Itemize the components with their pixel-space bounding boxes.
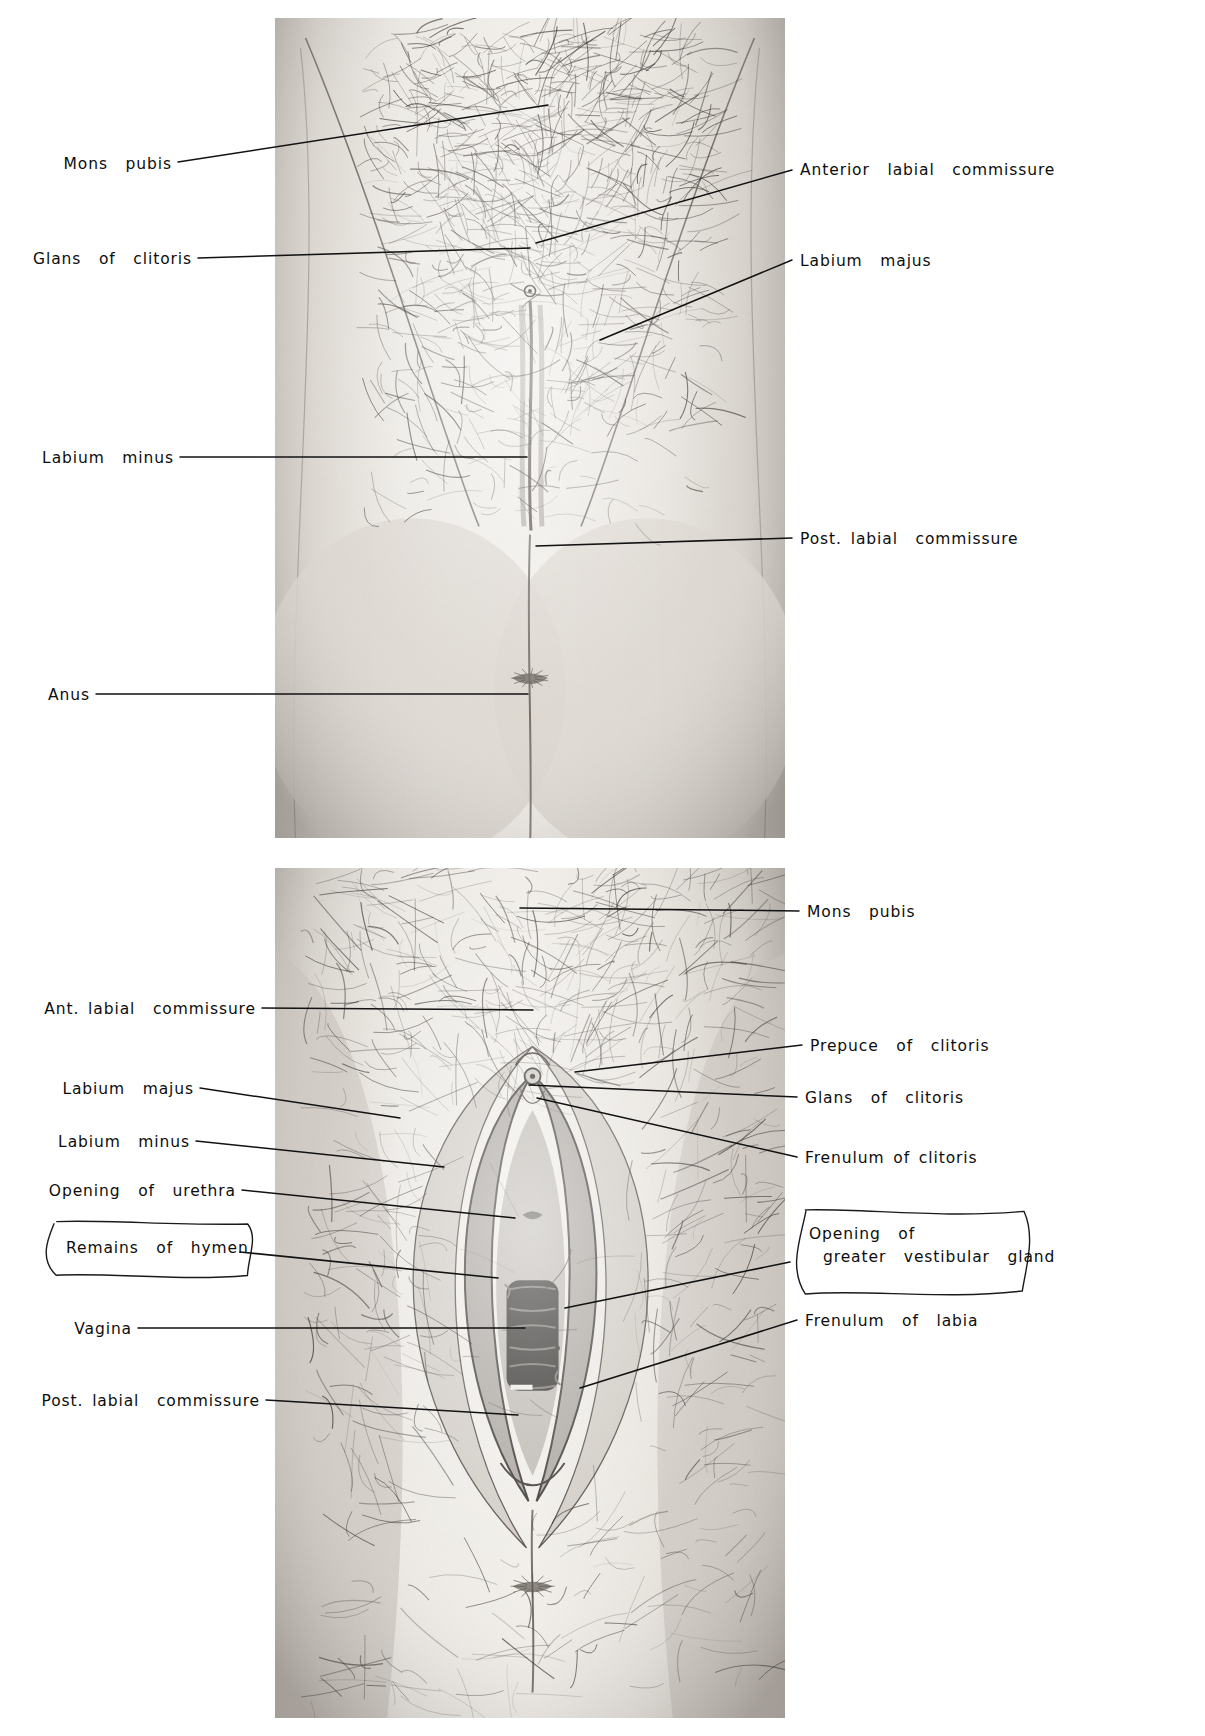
label-vagina: Vagina <box>0 1320 138 1340</box>
label-prepuce-of-clitoris: Prepuce of clitoris <box>810 1037 989 1057</box>
label-frenulum-of-clitoris: Frenulum of clitoris <box>805 1149 977 1169</box>
label-labium-majus: Labium majus <box>0 1080 200 1100</box>
callout-text-line: Opening of <box>809 1224 915 1245</box>
remains-of-hymen-callout: Remains of hymen <box>46 1222 254 1276</box>
label-mons-pubis: Mons pubis <box>807 903 915 923</box>
label-post-labial-commissure: Post. labial commissure <box>0 1392 266 1412</box>
label-frenulum-of-labia: Frenulum of labia <box>805 1312 978 1332</box>
label-opening-of-urethra: Opening of urethra <box>0 1182 242 1202</box>
label-anterior-labial-commissure: Anterior labial commissure <box>800 161 1055 181</box>
label-labium-minus: Labium minus <box>0 449 180 469</box>
label-ant-labial-commissure: Ant. labial commissure <box>0 1000 262 1020</box>
anatomical-plate: Mons pubisGlans of clitorisLabium minusA… <box>0 0 1205 1736</box>
label-glans-of-clitoris: Glans of clitoris <box>0 250 198 270</box>
callout-text-line: greater vestibular gland <box>823 1247 1055 1268</box>
label-post-labial-commissure: Post. labial commissure <box>800 530 1019 550</box>
label-glans-of-clitoris: Glans of clitoris <box>805 1089 964 1109</box>
upper-figure-image <box>275 18 785 838</box>
greater-vestibular-gland-callout: Opening ofgreater vestibular gland <box>795 1212 1030 1292</box>
label-labium-majus: Labium majus <box>800 252 932 272</box>
lower-figure-image <box>275 868 785 1718</box>
label-anus: Anus <box>0 686 96 706</box>
callout-text: Remains of hymen <box>66 1238 249 1259</box>
label-labium-minus: Labium minus <box>0 1133 196 1153</box>
label-mons-pubis: Mons pubis <box>0 155 178 175</box>
